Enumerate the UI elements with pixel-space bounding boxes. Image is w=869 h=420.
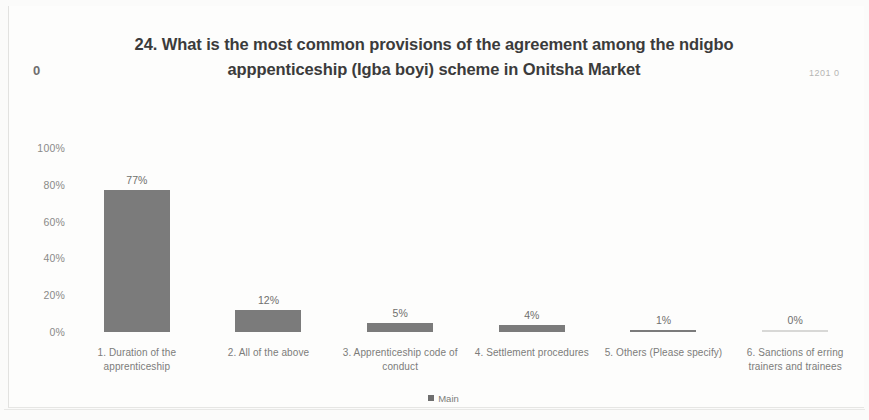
y-axis-tick: 100% <box>21 142 65 154</box>
stray-scan-digit: 0 <box>33 63 40 78</box>
x-axis-category-label: 3. Apprenticeship code of conduct <box>334 346 466 374</box>
bar-group: 4% <box>466 148 598 332</box>
bar-group: 0% <box>729 148 861 332</box>
plot-area: 77%12%5%4%1%0% <box>71 148 861 332</box>
page-rule <box>4 409 865 410</box>
chart-title: 24. What is the most common provisions o… <box>104 32 764 82</box>
bar-group: 5% <box>334 148 466 332</box>
bar[interactable] <box>499 325 565 332</box>
x-axis-category-label: 6. Sanctions of erring trainers and trai… <box>729 346 861 374</box>
y-axis: 100%80%60%40%20%0% <box>17 148 65 332</box>
bar[interactable] <box>630 330 696 333</box>
bar-value-label: 4% <box>524 309 539 321</box>
x-axis-category-label: 2. All of the above <box>203 346 335 360</box>
bar-value-label: 5% <box>393 307 408 319</box>
bar-value-label: 12% <box>258 294 279 306</box>
bar-value-label: 77% <box>126 174 147 186</box>
legend-label-main: Main <box>438 393 459 404</box>
bar-value-label: 1% <box>656 314 671 326</box>
chart-legend: Main <box>9 392 869 404</box>
y-axis-tick: 40% <box>21 252 65 264</box>
y-axis-tick: 0% <box>21 326 65 338</box>
bar[interactable] <box>235 310 301 332</box>
bar-group: 1% <box>598 148 730 332</box>
y-axis-tick: 80% <box>21 179 65 191</box>
legend-swatch-main <box>428 395 434 401</box>
y-axis-tick: 60% <box>21 216 65 228</box>
bar-group: 12% <box>203 148 335 332</box>
x-axis-category-label: 1. Duration of the apprenticeship <box>71 346 203 374</box>
x-axis-category-label: 4. Settlement procedures <box>466 346 598 360</box>
stray-scan-text: 1201 0 <box>809 68 840 78</box>
bar-value-label: 0% <box>788 314 803 326</box>
x-axis: 1. Duration of the apprenticeship2. All … <box>71 346 861 382</box>
y-axis-tick: 20% <box>21 289 65 301</box>
bar[interactable] <box>367 323 433 332</box>
scanned-page: 24. What is the most common provisions o… <box>0 0 869 420</box>
bar-group: 77% <box>71 148 203 332</box>
x-axis-category-label: 5. Others (Please specify) <box>598 346 730 360</box>
bar[interactable] <box>104 190 170 332</box>
chart-frame: 24. What is the most common provisions o… <box>8 6 864 408</box>
bar[interactable] <box>762 330 828 332</box>
